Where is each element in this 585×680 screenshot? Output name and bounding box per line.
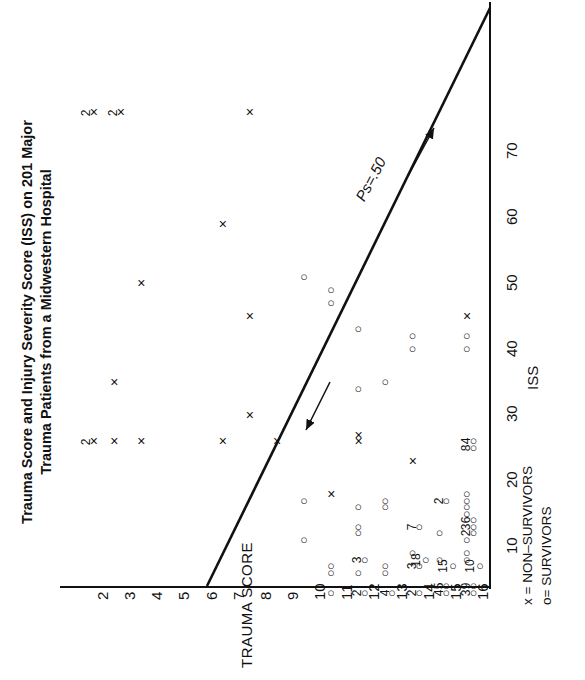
chart-root: Trauma Score and Injury Severity Score (… <box>0 0 585 680</box>
point-glyph: ○ <box>463 343 471 356</box>
point-glyph: ○ <box>409 343 417 356</box>
data-point-o: ○ <box>354 322 362 336</box>
point-glyph: ○ <box>354 527 362 540</box>
point-glyph: ○ <box>476 560 484 573</box>
data-point-o: 3○ <box>463 586 477 600</box>
point-glyph: ○ <box>327 567 335 580</box>
data-point-x: × <box>273 434 281 448</box>
data-point-o: ○ <box>354 500 362 514</box>
x-tick-3: 3 <box>121 592 138 600</box>
point-glyph: × <box>137 434 145 448</box>
x-tick-10: 10 <box>311 583 328 600</box>
title-line-2: Trauma Patients from a Midwestern Hospit… <box>37 169 56 474</box>
x-tick-9: 9 <box>284 592 301 600</box>
point-glyph: ○ <box>354 323 362 336</box>
x-tick-4: 4 <box>148 592 165 600</box>
point-count: 2 <box>406 589 418 596</box>
data-point-o: 3○ <box>354 553 368 567</box>
point-glyph: ○ <box>463 330 471 343</box>
data-point-o: ○ <box>382 500 390 514</box>
data-point-o: ○ <box>382 566 390 580</box>
data-point-x: × <box>219 434 227 448</box>
trauma-score-axis-label: TRAUMA SCORE <box>238 542 255 668</box>
point-glyph: × <box>273 434 281 448</box>
point-count: 3 <box>352 556 364 563</box>
data-point-x: × <box>137 276 145 290</box>
data-point-o: 3○ <box>409 559 423 573</box>
y-tick-60: 60 <box>503 208 520 225</box>
iss-axis-label: ISS <box>524 366 541 390</box>
point-count: 3 <box>406 563 418 570</box>
legend-survivors: o= SURVIVORS <box>539 507 554 605</box>
y-tick-30: 30 <box>503 406 520 423</box>
data-point-o: 4○ <box>382 586 396 600</box>
data-point-o: ○ <box>327 586 335 600</box>
data-point-o: ○ <box>354 566 362 580</box>
point-glyph: × <box>246 105 254 119</box>
point-glyph: ○ <box>354 501 362 514</box>
point-glyph: × <box>110 434 118 448</box>
data-point-x: × <box>110 375 118 389</box>
y-tick-10: 10 <box>503 537 520 554</box>
point-glyph: ○ <box>422 554 430 567</box>
point-glyph: × <box>246 309 254 323</box>
data-point-x: × <box>219 217 227 231</box>
point-glyph: ○ <box>300 534 308 547</box>
point-glyph: × <box>354 428 362 442</box>
point-count: 8 <box>460 444 472 451</box>
title-line-1: Trauma Score and Injury Severity Score (… <box>18 120 37 524</box>
y-tick-70: 70 <box>503 142 520 159</box>
iss-axis-line <box>489 2 491 589</box>
point-count: 10 <box>464 560 476 573</box>
data-point-o: ○ <box>354 382 362 396</box>
point-count: 3 <box>460 589 472 596</box>
point-glyph: ○ <box>354 383 362 396</box>
data-point-o: 2○ <box>354 586 368 600</box>
point-glyph: ○ <box>327 284 335 297</box>
data-point-o: ○ <box>354 526 362 540</box>
point-count: 2 <box>80 439 92 446</box>
data-point-o: 8○ <box>463 441 477 455</box>
data-point-o: ○ <box>436 526 444 540</box>
data-point-x: × <box>246 105 254 119</box>
data-point-o: ○ <box>463 342 471 356</box>
point-glyph: ○ <box>409 330 417 343</box>
point-count: 2 <box>352 589 364 596</box>
data-point-x: 2× <box>83 105 98 119</box>
point-count: 2 <box>80 110 92 117</box>
data-point-x: 2× <box>110 105 125 119</box>
point-count: 2 <box>107 110 119 117</box>
data-point-x: × <box>327 487 335 501</box>
data-point-o: ○ <box>300 270 308 284</box>
data-point-o: ○ <box>409 342 417 356</box>
x-tick-8: 8 <box>257 592 274 600</box>
data-point-o: ○ <box>382 375 390 389</box>
point-glyph: × <box>409 454 417 468</box>
data-point-x: × <box>137 434 145 448</box>
point-glyph: × <box>110 375 118 389</box>
chart-title: Trauma Score and Injury Severity Score (… <box>18 0 78 662</box>
data-point-x: × <box>110 434 118 448</box>
point-count: 7 <box>406 523 418 530</box>
point-glyph: × <box>246 408 254 422</box>
data-point-o: 10○ <box>463 559 484 573</box>
data-point-x: × <box>246 309 254 323</box>
ps-reference-line <box>0 0 585 680</box>
point-glyph: ○ <box>300 495 308 508</box>
point-glyph: ○ <box>327 297 335 310</box>
point-glyph: ○ <box>382 376 390 389</box>
point-glyph: × <box>219 434 227 448</box>
data-point-o: ○ <box>463 329 471 343</box>
point-glyph: × <box>327 487 335 501</box>
point-glyph: ○ <box>449 560 457 573</box>
point-glyph: × <box>463 309 471 323</box>
legend-nonsurvivors: x = NON–SURVIVORS <box>520 466 535 605</box>
point-glyph: × <box>137 276 145 290</box>
point-count: 2 <box>433 497 445 504</box>
data-point-o: ○ <box>409 329 417 343</box>
point-glyph: ○ <box>300 271 308 284</box>
x-tick-2: 2 <box>94 592 111 600</box>
x-tick-7: 7 <box>230 592 247 600</box>
data-point-o: 4○ <box>436 586 450 600</box>
data-point-o: ○ <box>463 533 471 547</box>
